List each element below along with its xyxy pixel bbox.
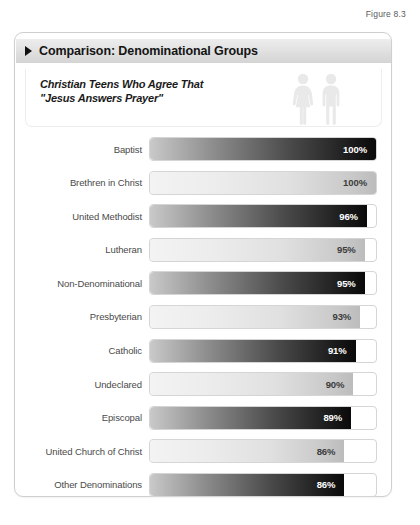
bar-row: United Methodist96% xyxy=(15,204,391,228)
bar-row: Presbyterian93% xyxy=(15,305,391,329)
bar-track: 95% xyxy=(149,271,377,295)
bar-fill: 90% xyxy=(150,373,353,395)
bar-track: 89% xyxy=(149,406,377,430)
people-pictogram xyxy=(289,70,347,130)
bar-track: 95% xyxy=(149,238,377,262)
bar-category-label: Undeclared xyxy=(15,379,149,390)
bar-row: Non-Denominational95% xyxy=(15,271,391,295)
bar-track: 86% xyxy=(149,473,377,497)
bar-value-label: 91% xyxy=(328,345,356,356)
bar-value-label: 95% xyxy=(337,244,365,255)
bar-value-label: 90% xyxy=(326,379,354,390)
person-male-icon xyxy=(323,74,340,125)
bars-area: Baptist100%Brethren in Christ100%United … xyxy=(15,137,391,493)
chart-card: Comparison: Denominational Groups Christ… xyxy=(14,32,392,497)
bar-fill: 95% xyxy=(150,272,365,294)
bar-track: 100% xyxy=(149,137,377,161)
bar-track: 91% xyxy=(149,339,377,363)
bar-category-label: Presbyterian xyxy=(15,311,149,322)
bar-category-label: Episcopal xyxy=(15,412,149,423)
bar-fill: 100% xyxy=(150,138,376,160)
chart-subtitle: Christian Teens Who Agree That "Jesus An… xyxy=(40,77,203,105)
bar-fill: 96% xyxy=(150,205,367,227)
bar-track: 90% xyxy=(149,372,377,396)
bar-fill: 86% xyxy=(150,474,344,496)
bar-track: 96% xyxy=(149,204,377,228)
bar-category-label: Non-Denominational xyxy=(15,278,149,289)
bar-row: Other Denominations86% xyxy=(15,473,391,497)
bar-fill: 86% xyxy=(150,440,344,462)
bar-fill: 100% xyxy=(150,172,376,194)
figure-label: Figure 8.3 xyxy=(366,9,406,19)
subtitle-panel: Christian Teens Who Agree That "Jesus An… xyxy=(25,69,382,127)
bar-category-label: United Methodist xyxy=(15,211,149,222)
bar-category-label: Brethren in Christ xyxy=(15,177,149,188)
bar-value-label: 95% xyxy=(337,278,365,289)
bar-value-label: 100% xyxy=(343,177,376,188)
bar-category-label: Baptist xyxy=(15,144,149,155)
card-header: Comparison: Denominational Groups xyxy=(16,39,391,63)
bar-category-label: United Church of Christ xyxy=(15,446,149,457)
person-female-icon xyxy=(293,74,313,125)
bar-row: United Church of Christ86% xyxy=(15,439,391,463)
bar-fill: 91% xyxy=(150,340,356,362)
bar-row: Baptist100% xyxy=(15,137,391,161)
bar-row: Lutheran95% xyxy=(15,238,391,262)
bar-track: 100% xyxy=(149,171,377,195)
bar-fill: 95% xyxy=(150,239,365,261)
bar-fill: 89% xyxy=(150,407,351,429)
bar-row: Brethren in Christ100% xyxy=(15,171,391,195)
bar-track: 86% xyxy=(149,439,377,463)
bar-value-label: 100% xyxy=(343,144,376,155)
bar-fill: 93% xyxy=(150,306,360,328)
bar-row: Undeclared90% xyxy=(15,372,391,396)
bar-value-label: 96% xyxy=(339,211,367,222)
bar-row: Catholic91% xyxy=(15,339,391,363)
bar-row: Episcopal89% xyxy=(15,406,391,430)
bar-category-label: Other Denominations xyxy=(15,479,149,490)
bar-track: 93% xyxy=(149,305,377,329)
bar-category-label: Catholic xyxy=(15,345,149,356)
bar-value-label: 86% xyxy=(317,479,345,490)
bar-value-label: 93% xyxy=(332,311,360,322)
triangle-right-icon xyxy=(25,46,32,56)
bar-value-label: 86% xyxy=(317,446,345,457)
bar-value-label: 89% xyxy=(323,412,351,423)
bar-category-label: Lutheran xyxy=(15,244,149,255)
card-header-title: Comparison: Denominational Groups xyxy=(39,44,258,58)
